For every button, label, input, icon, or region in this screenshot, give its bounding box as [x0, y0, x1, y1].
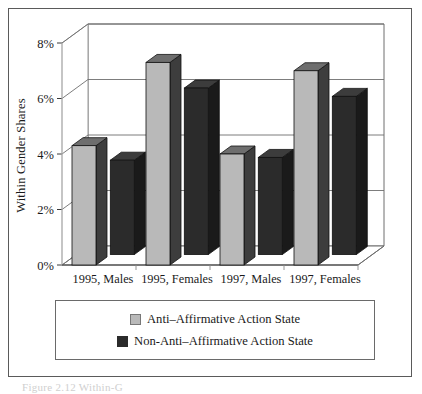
bar-side-face	[208, 80, 219, 255]
bar-front-face	[146, 62, 170, 265]
bar-front-face	[258, 157, 282, 254]
x-tick-label: 1997, Females	[289, 272, 361, 286]
legend-item-anti: Anti–Affirmative Action State	[130, 312, 300, 327]
x-tick-label: 1995, Males	[73, 272, 134, 286]
y-axis-title: Within Gender Shares	[14, 71, 29, 241]
bar-side-face	[96, 138, 107, 265]
bar-side-face	[282, 149, 293, 254]
bar-side-face	[244, 146, 255, 265]
bar-chart-3d: 0%2%4%6%8%1995, Males1995, Females1997, …	[8, 8, 412, 298]
bar-front-face	[220, 154, 244, 265]
bar-front-face	[110, 160, 134, 254]
bar-side-face	[356, 88, 367, 254]
bar-side-face	[318, 63, 329, 265]
y-tick-label: 4%	[37, 148, 54, 162]
y-tick-label: 0%	[37, 259, 54, 273]
legend-swatch-dark-icon	[117, 336, 128, 347]
y-tick-label: 6%	[37, 92, 54, 106]
bar-front-face	[294, 71, 318, 265]
legend-label-non-anti: Non-Anti–Affirmative Action State	[134, 334, 313, 349]
bar-side-face	[134, 152, 145, 254]
bar-side-face	[170, 54, 181, 265]
x-tick-label: 1995, Females	[141, 272, 213, 286]
y-tick-label: 2%	[37, 203, 54, 217]
bar-front-face	[332, 96, 356, 254]
legend-label-anti: Anti–Affirmative Action State	[147, 312, 300, 327]
legend-swatch-light-icon	[130, 314, 141, 325]
bar-front-face	[72, 146, 96, 265]
figure-caption: Figure 2.12 Within-G	[22, 381, 123, 393]
y-tick-label: 8%	[37, 37, 54, 51]
chart-legend: Anti–Affirmative Action State Non-Anti–A…	[55, 300, 375, 360]
bar-front-face	[184, 88, 208, 255]
figure-root: 0%2%4%6%8%1995, Males1995, Females1997, …	[0, 0, 422, 394]
chart-canvas: 0%2%4%6%8%1995, Males1995, Females1997, …	[8, 8, 412, 298]
legend-item-non-anti: Non-Anti–Affirmative Action State	[117, 334, 313, 349]
x-tick-label: 1997, Males	[221, 272, 282, 286]
